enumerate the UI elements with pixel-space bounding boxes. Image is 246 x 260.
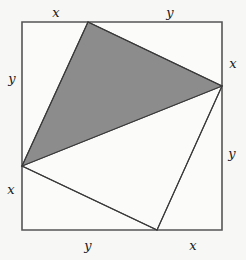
label-left-top-y: y [8, 72, 15, 85]
label-right-top-x: x [229, 57, 236, 70]
geometry-figure: xyyxxyyx [0, 0, 246, 260]
label-top-left-x: x [52, 6, 59, 19]
label-left-bottom-x: x [7, 183, 14, 196]
label-bottom-right-x: x [189, 239, 196, 252]
label-bottom-left-y: y [84, 239, 91, 252]
figure-canvas [0, 0, 246, 260]
label-top-right-y: y [166, 6, 173, 19]
label-right-bottom-y: y [228, 147, 235, 160]
